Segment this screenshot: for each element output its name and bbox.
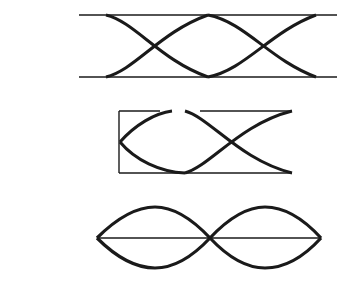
- trace-rising-1: [106, 15, 208, 77]
- eye-pattern-middle: [119, 111, 292, 173]
- trace-rising-2: [208, 15, 316, 77]
- lens-pattern-bottom: [97, 207, 321, 268]
- lens-right-upper: [210, 207, 321, 238]
- diagram-canvas: [0, 0, 349, 289]
- eye-pattern-top: [79, 15, 337, 77]
- trace-left-lower: [120, 142, 185, 173]
- trace-left-upper: [120, 111, 172, 142]
- lens-left-upper: [97, 207, 210, 238]
- lens-left-lower: [97, 238, 210, 268]
- lens-right-lower: [210, 238, 321, 268]
